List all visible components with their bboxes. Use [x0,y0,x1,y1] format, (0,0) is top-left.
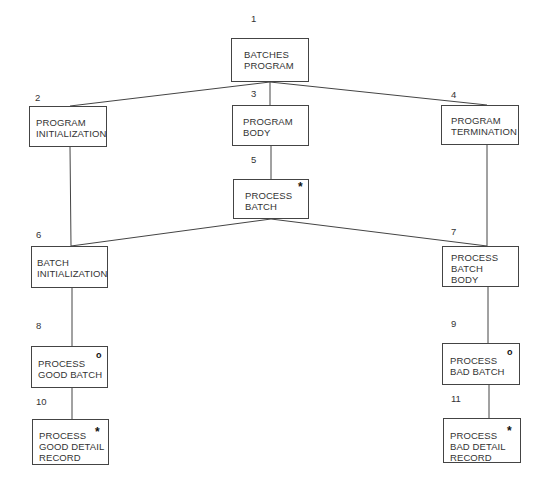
node-process-batch: PROCESS BATCH * [233,179,309,219]
node-label-line: INITIALIZATION [37,268,107,279]
selection-circle-icon: o [507,346,513,358]
node-label-line: BODY [451,274,498,285]
node-process-good-batch: PROCESS GOOD BATCH o [31,346,108,388]
node-label-line: PROCESS [450,355,505,366]
node-label-line: PROGRAM [244,60,294,71]
node-number-5: 5 [251,154,256,165]
node-label-line: PROGRAM [36,117,106,128]
node-label-line: BATCH [245,201,292,212]
node-label-line: PROCESS [38,358,102,369]
iteration-star-icon: * [298,181,303,193]
node-label-line: BODY [243,127,293,138]
node-label-line: INITIALIZATION [36,128,106,139]
node-label-line: BAD BATCH [450,366,505,377]
node-number-9: 9 [451,318,456,329]
node-label-line: BAD DETAIL [450,441,506,452]
node-label-line: PROGRAM [451,115,517,126]
node-number-7: 7 [451,226,456,237]
node-process-good-detail-record: PROCESS GOOD DETAIL RECORD * [32,419,109,465]
iteration-star-icon: * [507,425,512,437]
node-process-bad-detail-record: PROCESS BAD DETAIL RECORD * [443,418,521,463]
node-process-batch-body: PROCESS BATCH BODY [442,246,519,287]
node-label-line: PROCESS [450,430,506,441]
node-number-8: 8 [36,320,41,331]
node-batches-program: BATCHES PROGRAM [231,38,309,82]
node-label-line: GOOD DETAIL [39,441,104,452]
node-label-line: PROCESS [451,252,498,263]
node-label-line: BATCH [37,257,107,268]
node-label-line: PROGRAM [243,116,293,127]
node-number-2: 2 [35,92,40,103]
node-program-termination: PROGRAM TERMINATION [441,105,519,145]
node-batch-initialization: BATCH INITIALIZATION [31,246,108,288]
node-number-4: 4 [451,89,456,100]
node-label-line: PROCESS [245,190,292,201]
selection-circle-icon: o [96,349,102,361]
node-label-line: RECORD [39,452,104,463]
node-program-initialization: PROGRAM INITIALIZATION [29,106,107,147]
node-program-body: PROGRAM BODY [232,105,309,146]
node-label-line: GOOD BATCH [38,369,102,380]
node-label-line: BATCHES [244,49,294,60]
node-number-10: 10 [36,396,47,407]
node-label-line: RECORD [450,452,506,463]
node-process-bad-batch: PROCESS BAD BATCH o [442,343,520,385]
node-label-line: TERMINATION [451,126,517,137]
node-label-line: BATCH [451,263,498,274]
node-number-3: 3 [251,88,256,99]
iteration-star-icon: * [95,426,100,438]
node-number-11: 11 [451,393,461,404]
node-number-6: 6 [36,229,41,240]
node-number-1: 1 [251,13,256,24]
